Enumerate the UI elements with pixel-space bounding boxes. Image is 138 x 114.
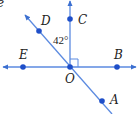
- label-o: O: [65, 72, 75, 86]
- point-d: [36, 28, 42, 34]
- title-fragment: e: [0, 0, 4, 10]
- point-o: [67, 64, 73, 70]
- label-a: A: [109, 93, 119, 107]
- label-b: B: [113, 48, 123, 62]
- point-a: [99, 98, 105, 104]
- point-b: [114, 64, 120, 70]
- label-d: D: [40, 14, 51, 28]
- label-c: C: [78, 13, 87, 27]
- label-e: E: [18, 48, 28, 62]
- angle-label: 42°: [53, 34, 68, 46]
- point-c: [67, 16, 73, 22]
- geometry-diagram: e D C E B O A 42°: [0, 0, 138, 114]
- point-e: [20, 64, 26, 70]
